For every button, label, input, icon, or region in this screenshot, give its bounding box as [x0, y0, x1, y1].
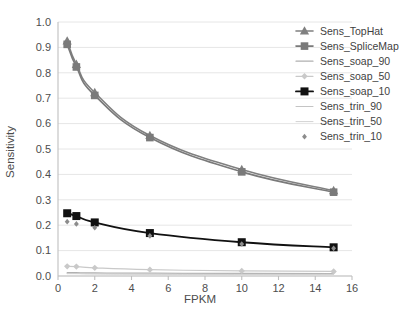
data-point-marker	[238, 168, 246, 176]
sensitivity-vs-fpkm-line-chart: 0.00.10.20.30.40.50.60.70.80.91.0 024681…	[0, 0, 415, 316]
x-tick-label: 6	[165, 282, 171, 294]
data-point-marker	[146, 134, 154, 142]
data-point-marker	[301, 42, 309, 50]
chart-container: 0.00.10.20.30.40.50.60.70.80.91.0 024681…	[0, 0, 415, 316]
x-axis-title: FPKM	[184, 293, 216, 305]
y-tick-label: 0.9	[36, 41, 51, 53]
y-tick-label: 0.6	[36, 117, 51, 129]
legend-label: Sens_TopHat	[320, 25, 383, 37]
y-tick-label: 0.7	[36, 92, 51, 104]
data-point-marker	[63, 209, 71, 217]
legend-label: Sens_trin_10	[320, 130, 382, 142]
x-tick-label: 16	[346, 282, 358, 294]
x-tick-label: 14	[309, 282, 321, 294]
x-tick-label: 10	[236, 282, 248, 294]
data-point-marker	[72, 212, 80, 220]
data-point-marker	[63, 41, 71, 49]
y-tick-label: 0.2	[36, 219, 51, 231]
y-axis-title: Sensitivity	[4, 126, 16, 178]
y-tick-label: 1.0	[36, 16, 51, 28]
data-point-marker	[73, 63, 81, 71]
x-tick-label: 0	[55, 282, 61, 294]
y-tick-label: 0.4	[36, 168, 51, 180]
legend-label: Sens_trin_50	[320, 115, 382, 127]
x-tick-label: 2	[92, 282, 98, 294]
data-point-marker	[330, 188, 338, 196]
y-tick-label: 0.5	[36, 143, 51, 155]
x-tick-label: 12	[272, 282, 284, 294]
legend-label: Sens_soap_10	[320, 85, 390, 97]
legend-label: Sens_SpliceMap	[320, 40, 399, 52]
legend-label: Sens_soap_90	[320, 55, 390, 67]
legend-label: Sens_soap_50	[320, 70, 390, 82]
legend-label: Sens_trin_90	[320, 100, 382, 112]
data-point-marker	[91, 92, 99, 100]
data-point-marker	[301, 87, 309, 95]
x-tick-label: 4	[128, 282, 134, 294]
y-tick-label: 0.1	[36, 244, 51, 256]
y-tick-label: 0.0	[36, 270, 51, 282]
y-tick-label: 0.3	[36, 194, 51, 206]
y-tick-label: 0.8	[36, 67, 51, 79]
